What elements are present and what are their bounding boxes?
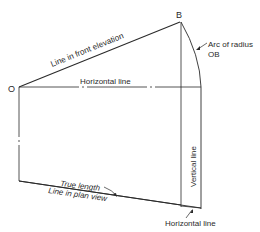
arc-label-line2: OB [208, 50, 220, 59]
horizontal-top-label: Horizontal line [80, 77, 131, 86]
horizontal-bottom-label: Horizontal line [165, 219, 216, 228]
arc-arrowhead-icon [196, 46, 200, 50]
true-length-line [19, 181, 201, 208]
true-length-diagram: O B Line in front elevation Horizontal l… [0, 0, 260, 232]
front-elevation-label: Line in front elevation [49, 31, 125, 69]
point-b-label: B [176, 10, 182, 20]
vertical-label: Vertical line [189, 146, 198, 187]
horizontal-bottom-leader [186, 210, 192, 218]
arc-label-line1: Arc of radius [208, 40, 253, 49]
point-o-label: O [8, 84, 15, 94]
